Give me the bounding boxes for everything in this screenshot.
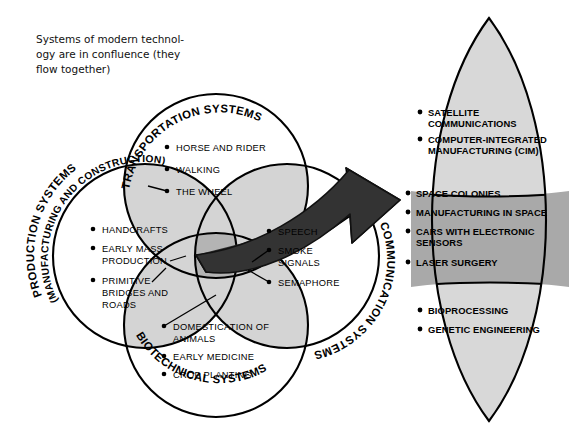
caption-line-3: flow together)	[36, 63, 110, 75]
confluence-diagram: Systems of modern technol- ogy are in co…	[0, 0, 581, 441]
bullet-icon	[91, 278, 96, 283]
lens-bot-0-0: BIOPROCESSING	[428, 305, 508, 316]
lens-mid-2-0: CARS WITH ELECTRONIC	[416, 226, 535, 237]
lens-mid-2-1: SENSORS	[416, 237, 463, 248]
bullet-icon	[267, 229, 272, 234]
caption: Systems of modern technol- ogy are in co…	[36, 33, 184, 75]
item-production-0-0: HANDCRAFTS	[102, 225, 168, 235]
item-communication-0-0: SPEECH	[278, 227, 318, 237]
lens-mid-1-0: MANUFACTURING IN SPACE	[416, 207, 547, 218]
bullet-icon	[165, 167, 170, 172]
item-production-1-1: PRODUCTION	[102, 256, 167, 266]
item-production-2-0: PRIMITIVE	[102, 276, 151, 286]
item-production-2-1: BRIDGES AND	[102, 288, 168, 298]
lens-mid-3-0: LASER SURGERY	[416, 257, 498, 268]
lens-top-0-0: SATELLITE	[428, 107, 479, 118]
bullet-icon	[165, 145, 170, 150]
bullet-icon	[406, 229, 411, 234]
item-communication-1-1: SIGNALS	[278, 258, 320, 268]
bullet-icon	[406, 210, 411, 215]
caption-line-2: ogy are in confluence (they	[36, 48, 180, 60]
bullet-icon	[418, 327, 423, 332]
bullet-icon	[406, 260, 411, 265]
item-transportation-0-0: HORSE AND RIDER	[176, 143, 266, 153]
item-transportation-1-0: WALKING	[176, 165, 220, 175]
caption-line-1: Systems of modern technol-	[36, 33, 184, 45]
bullet-icon	[91, 227, 96, 232]
lens-top-1-0: COMPUTER-INTEGRATED	[428, 134, 547, 145]
item-communication-1-0: SMOKE	[278, 246, 313, 256]
item-communication-2-0: SEMAPHORE	[278, 278, 340, 288]
item-biotechnical-1-0: EARLY MEDICINE	[173, 352, 254, 362]
item-production-2-2: ROADS	[102, 300, 136, 310]
lens-bot-1-0: GENETIC ENGINEERING	[428, 324, 540, 335]
item-biotechnical-0-1: ANIMALS	[173, 334, 216, 344]
item-biotechnical-0-0: DOMESTICATION OF	[173, 322, 269, 332]
item-transportation-2-0: THE WHEEL	[176, 187, 233, 197]
outcomes-lens: SATELLITE COMMUNICATIONS COMPUTER-INTEGR…	[405, 18, 575, 421]
lens-top-1-1: MANUFACTURING (CIM)	[428, 145, 539, 156]
bullet-icon	[406, 191, 411, 196]
bullet-icon	[418, 110, 423, 115]
item-production-1-0: EARLY MASS	[102, 244, 163, 254]
bullet-icon	[91, 246, 96, 251]
bullet-icon	[418, 308, 423, 313]
lens-mid-0-0: SPACE COLONIES	[416, 188, 501, 199]
bullet-icon	[162, 372, 167, 377]
diagram-canvas: Systems of modern technol- ogy are in co…	[0, 0, 581, 441]
bullet-icon	[418, 137, 423, 142]
lens-top-0-1: COMMUNICATIONS	[428, 118, 517, 129]
